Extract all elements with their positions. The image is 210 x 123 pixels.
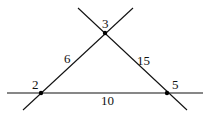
line-through-2-3 (23, 8, 133, 110)
node-2-dot (39, 91, 43, 95)
node-2-label: 2 (32, 77, 39, 92)
edge-2-3-weight-label: 6 (64, 51, 71, 66)
edge-3-5-weight-label: 15 (137, 53, 150, 68)
edge-2-5-weight-label: 10 (101, 93, 114, 108)
triangle-graph-diagram: 325 61510 (0, 0, 210, 123)
node-5-label: 5 (172, 77, 179, 92)
node-3-dot (103, 31, 107, 35)
line-through-3-5 (78, 8, 187, 110)
node-5-dot (165, 91, 169, 95)
node-3-label: 3 (102, 16, 109, 31)
